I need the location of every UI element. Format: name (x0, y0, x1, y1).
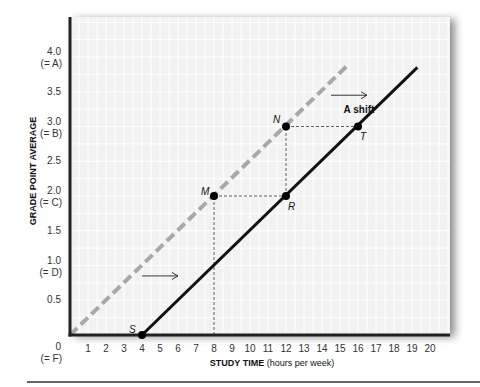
y-axis-ticks: 0(= F)0.51.0(= D)1.52.0(= C)2.53.0(= B)3… (40, 46, 63, 364)
y-tick-label: 1.5 (47, 225, 61, 236)
y-tick-grade-label: (= F) (41, 353, 62, 364)
y-axis-title: GRADE POINT AVERAGE (28, 117, 38, 226)
y-tick-label: 3.5 (47, 86, 61, 97)
y-tick-grade-label: (= D) (40, 267, 63, 278)
x-tick-label: 12 (280, 343, 292, 354)
x-tick-label: 3 (121, 343, 127, 354)
x-tick-label: 11 (263, 343, 274, 354)
point-r (282, 192, 290, 200)
y-tick-grade-label: (= B) (40, 128, 62, 139)
point-label-r: R (288, 201, 295, 212)
y-tick-label: 4.0 (47, 46, 61, 57)
x-tick-label: 7 (193, 343, 199, 354)
x-axis-title: STUDY TIME (hours per week) (210, 358, 334, 368)
x-tick-label: 15 (334, 343, 346, 354)
y-tick-label: 2.5 (47, 155, 61, 166)
x-tick-label: 14 (316, 343, 328, 354)
x-tick-label: 18 (388, 343, 400, 354)
y-tick-label: 1.0 (47, 255, 61, 266)
x-tick-label: 6 (175, 343, 181, 354)
y-tick-grade-label: (= C) (40, 197, 63, 208)
x-tick-label: 1 (85, 343, 91, 354)
point-label-s: S (129, 324, 136, 335)
x-tick-label: 20 (424, 343, 436, 354)
y-tick-label: 0 (55, 341, 61, 352)
x-tick-label: 17 (370, 343, 382, 354)
bottom-divider (27, 381, 480, 383)
y-tick-label: 0.5 (47, 294, 61, 305)
point-label-m: M (201, 186, 210, 197)
x-tick-label: 4 (139, 343, 145, 354)
chart: SMNRT A shift 12345678910111213141516171… (0, 0, 480, 387)
x-tick-label: 19 (406, 343, 418, 354)
y-tick-label: 2.0 (47, 185, 61, 196)
plot-area (70, 17, 450, 335)
x-tick-label: 10 (244, 343, 256, 354)
x-axis-ticks: 1234567891011121314151617181920 (85, 343, 436, 354)
point-label-t: T (360, 131, 367, 142)
x-tick-label: 5 (157, 343, 163, 354)
point-s (138, 331, 146, 339)
point-t (354, 123, 362, 131)
shift-label: A shift (344, 104, 375, 115)
point-label-n: N (273, 114, 281, 125)
x-tick-label: 8 (211, 343, 217, 354)
x-tick-label: 16 (352, 343, 364, 354)
x-tick-label: 13 (298, 343, 310, 354)
x-tick-label: 2 (103, 343, 109, 354)
plot-background (70, 17, 450, 335)
y-tick-label: 3.0 (47, 116, 61, 127)
point-m (210, 192, 218, 200)
point-n (282, 123, 290, 131)
y-tick-grade-label: (= A) (41, 58, 62, 69)
x-tick-label: 9 (229, 343, 235, 354)
